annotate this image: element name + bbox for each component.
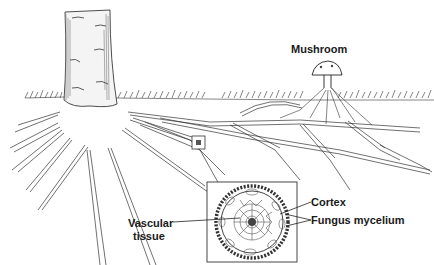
label-vascular: Vascular	[128, 217, 173, 229]
mycorrhiza-diagram: Mushroom Cortex Fungus mycelium Vascular…	[0, 0, 434, 265]
root-detail-marker-box	[192, 136, 205, 149]
label-tissue: tissue	[133, 230, 165, 242]
label-fungus-mycelium: Fungus mycelium	[311, 214, 405, 226]
label-mushroom: Mushroom	[291, 43, 347, 55]
tree-trunk	[64, 10, 117, 107]
mushroom-with-hyphae	[280, 61, 372, 125]
root-cross-section-inset	[207, 182, 297, 262]
label-cortex: Cortex	[311, 196, 346, 208]
